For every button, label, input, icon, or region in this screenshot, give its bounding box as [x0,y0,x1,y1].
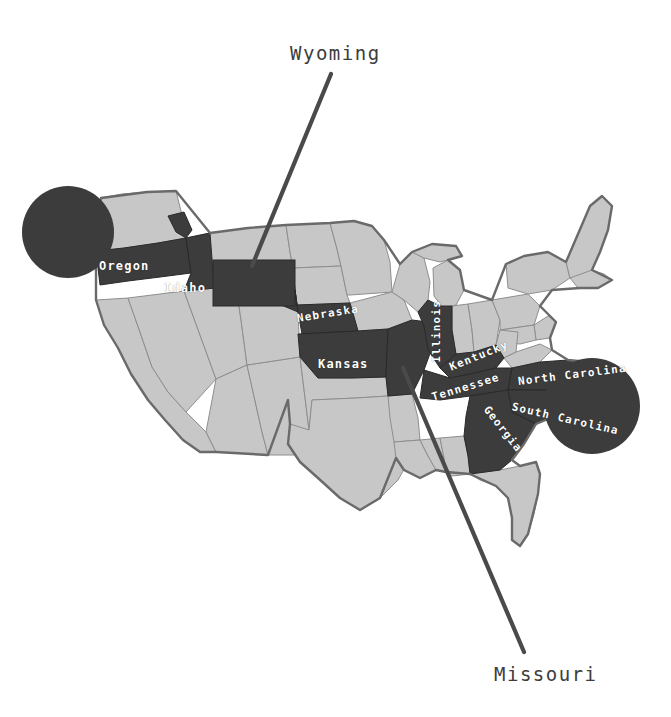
state-label-idaho: Idaho [164,281,206,295]
callout-label-missouri: Missouri [494,663,598,685]
map-figure: Wyoming Missouri OregonIdahoNebraskaKans… [0,0,671,717]
state-label-kansas: Kansas [318,357,369,371]
state-florida [470,462,540,546]
state-south-dakota [293,266,350,305]
state-label-oregon: Oregon [99,259,150,273]
state-label-illinois: Illinois [430,300,443,363]
callout-label-wyoming: Wyoming [290,42,381,64]
state-wyoming-box [213,260,295,306]
